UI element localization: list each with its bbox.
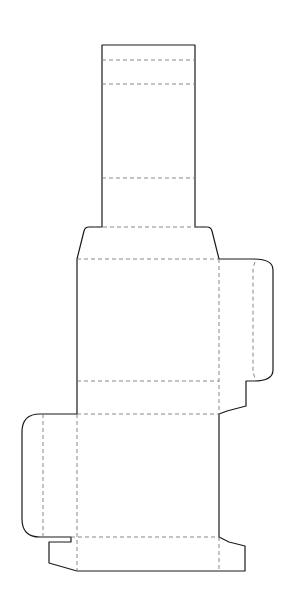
dieline-canvas [0, 0, 290, 600]
fold-line-right-flap [253, 262, 255, 378]
dieline-diagram [0, 0, 290, 600]
cut-outline [22, 45, 273, 571]
